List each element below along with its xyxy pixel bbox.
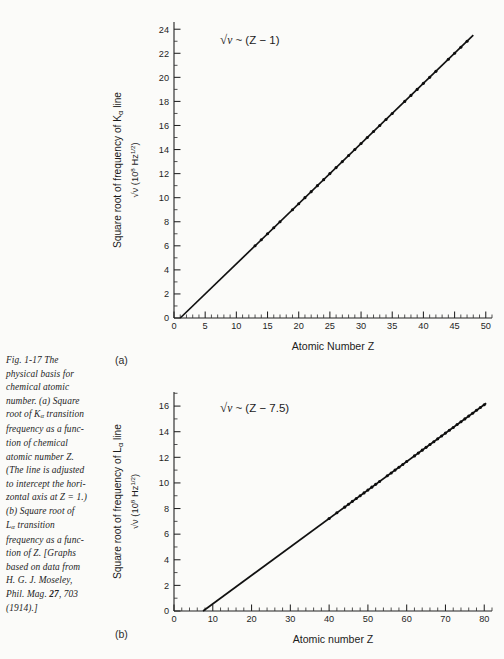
x-tick-label: 0: [171, 321, 176, 331]
data-point: [459, 46, 462, 49]
caption-line: Lα transition: [6, 519, 106, 534]
y-tick-label: 10: [159, 193, 169, 203]
y-tick-label: 4: [164, 265, 169, 275]
chart-b-annotation: √ν ~ (Z − 7.5): [220, 400, 289, 416]
data-point: [447, 58, 450, 61]
x-tick-label: 0: [171, 614, 176, 624]
x-tick-label: 25: [325, 321, 335, 331]
data-point: [362, 491, 365, 494]
data-point: [374, 483, 377, 486]
data-point: [448, 429, 451, 432]
y-tick-label: 6: [164, 241, 169, 251]
caption-line: H. G. J. Moseley,: [6, 574, 106, 588]
caption-line: root of Kα transition: [6, 408, 106, 423]
data-point: [444, 432, 447, 435]
y-tick-label: 6: [164, 529, 169, 539]
chart-panel-b: 010203040506070800246810121416 Square ro…: [108, 378, 500, 653]
y-tick-label: 0: [164, 313, 169, 323]
x-tick-label: 35: [387, 321, 397, 331]
x-tick-label: 10: [231, 321, 241, 331]
data-point: [390, 471, 393, 474]
y-tick-label: 2: [164, 289, 169, 299]
data-point: [413, 454, 416, 457]
y-tick-label: 14: [159, 427, 169, 437]
data-point: [297, 202, 300, 205]
chart-a-y-axis-title: Square root of frequency of Kα line√ν (1…: [112, 22, 141, 318]
chart-panel-a: 0510152025303540455002468101214161820222…: [108, 8, 500, 360]
data-point: [401, 463, 404, 466]
y-tick-label: 24: [159, 25, 169, 35]
data-point: [459, 420, 462, 423]
data-point: [370, 486, 373, 489]
data-point: [405, 460, 408, 463]
data-point: [328, 172, 331, 175]
data-point: [335, 166, 338, 169]
data-point: [471, 412, 474, 415]
chart-b-y-axis-title: Square root of frequency of Lα line√ν (1…: [112, 392, 141, 611]
data-point: [303, 196, 306, 199]
data-point: [254, 244, 257, 247]
caption-line: frequency as a func-: [6, 534, 106, 548]
data-point: [428, 76, 431, 79]
data-point: [428, 443, 431, 446]
data-point: [475, 409, 478, 412]
y-tick-label: 22: [159, 49, 169, 59]
data-point: [467, 415, 470, 418]
caption-line: tion of Z. [Graphs: [6, 547, 106, 561]
data-point: [366, 136, 369, 139]
x-tick-label: 30: [285, 614, 295, 624]
data-point: [479, 406, 482, 409]
data-point: [453, 52, 456, 55]
x-tick-label: 10: [208, 614, 218, 624]
chart-a-canvas: 0510152025303540455002468101214161820222…: [108, 8, 500, 360]
data-point: [355, 497, 358, 500]
data-point: [397, 466, 400, 469]
y-tick-label: 18: [159, 97, 169, 107]
data-point: [416, 88, 419, 91]
data-point: [378, 124, 381, 127]
data-point: [463, 417, 466, 420]
caption-line: Phil. Mag. 27, 703: [6, 588, 106, 602]
data-point: [378, 480, 381, 483]
caption-line: Fig. 1-17 The: [6, 354, 106, 368]
caption-line: zontal axis at Z = 1.): [6, 491, 106, 505]
data-point: [347, 503, 350, 506]
x-tick-label: 40: [324, 614, 334, 624]
data-point: [483, 403, 486, 406]
data-point: [432, 440, 435, 443]
y-tick-label: 12: [159, 169, 169, 179]
y-tick-label: 14: [159, 145, 169, 155]
caption-line: physical basis for: [6, 368, 106, 382]
data-point: [372, 130, 375, 133]
data-point: [360, 142, 363, 145]
y-tick-label: 8: [164, 504, 169, 514]
y-tick-label: 8: [164, 217, 169, 227]
x-tick-label: 30: [356, 321, 366, 331]
data-point: [291, 208, 294, 211]
data-point: [456, 423, 459, 426]
data-point: [328, 517, 331, 520]
data-point: [343, 506, 346, 509]
x-tick-label: 45: [449, 321, 459, 331]
data-point: [391, 112, 394, 115]
chart-a-x-axis-title: Atomic Number Z: [292, 340, 374, 352]
data-point: [422, 82, 425, 85]
data-point: [393, 469, 396, 472]
data-point: [421, 449, 424, 452]
x-tick-label: 70: [440, 614, 450, 624]
caption-line: based on data from: [6, 561, 106, 575]
data-point: [466, 40, 469, 43]
y-tick-label: 2: [164, 581, 169, 591]
data-point: [403, 100, 406, 103]
data-point: [417, 452, 420, 455]
caption-line: chemical atomic: [6, 381, 106, 395]
data-point: [272, 226, 275, 229]
data-point: [366, 489, 369, 492]
data-point: [341, 160, 344, 163]
caption-line: atomic number Z.: [6, 451, 106, 465]
data-point: [347, 154, 350, 157]
data-point: [384, 118, 387, 121]
data-point: [266, 232, 269, 235]
figure-page: Fig. 1-17 Thephysical basis forchemical …: [0, 0, 504, 659]
y-tick-label: 20: [159, 73, 169, 83]
